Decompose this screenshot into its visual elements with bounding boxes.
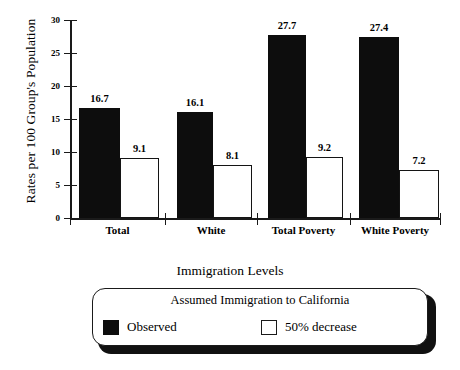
y-tick-15 — [64, 119, 77, 120]
y-tick-label-10: 10 — [40, 147, 60, 157]
y-tick-10 — [64, 152, 77, 153]
bar-total-poverty-decrease — [306, 157, 343, 218]
legend-entry-observed[interactable]: Observed — [103, 319, 177, 335]
bar-value-label: 16.7 — [67, 93, 132, 104]
legend-label-observed: Observed — [127, 319, 177, 335]
y-tick-label-0: 0 — [40, 213, 60, 223]
bar-value-label: 9.2 — [294, 142, 355, 153]
legend-title: Assumed Immigration to California — [93, 293, 427, 308]
bar-total-poverty-observed — [268, 35, 306, 218]
legend-label-decrease: 50% decrease — [285, 319, 357, 335]
y-tick-25 — [64, 53, 77, 54]
category-label-white-poverty: White Poverty — [335, 224, 455, 236]
bar-value-label: 27.7 — [256, 20, 318, 31]
y-tick-5 — [64, 185, 77, 186]
bar-value-label: 9.1 — [108, 143, 171, 154]
bar-chart: Rates per 100 Group's Population 0510152… — [0, 0, 460, 260]
bar-value-label: 27.4 — [347, 22, 411, 33]
x-axis-line — [70, 218, 441, 220]
bar-total-observed — [79, 108, 120, 218]
x-axis-title: Immigration Levels — [0, 263, 460, 279]
y-tick-label-25: 25 — [40, 48, 60, 58]
bar-value-label: 16.1 — [165, 97, 225, 108]
bar-white-poverty-observed — [359, 37, 399, 218]
y-tick-label-15: 15 — [40, 114, 60, 124]
bar-white-poverty-decrease — [399, 170, 439, 218]
legend-box: Assumed Immigration to California Observ… — [92, 288, 428, 346]
y-tick-label-20: 20 — [40, 81, 60, 91]
y-tick-20 — [64, 86, 77, 87]
y-tick-label-30: 30 — [40, 15, 60, 25]
y-tick-30 — [64, 20, 77, 21]
bar-value-label: 7.2 — [387, 155, 451, 166]
legend-swatch-decrease — [261, 320, 277, 335]
legend-swatch-observed — [103, 320, 119, 335]
y-axis-label: Rates per 100 Group's Population — [23, 6, 39, 216]
bar-white-decrease — [213, 165, 252, 218]
bar-white-observed — [177, 112, 213, 218]
y-tick-label-5: 5 — [40, 180, 60, 190]
legend-entry-decrease[interactable]: 50% decrease — [261, 319, 357, 335]
bar-value-label: 8.1 — [201, 150, 264, 161]
bar-total-decrease — [120, 158, 159, 218]
